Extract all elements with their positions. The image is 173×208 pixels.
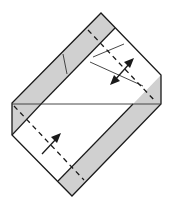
- origami-diagram: [0, 0, 173, 208]
